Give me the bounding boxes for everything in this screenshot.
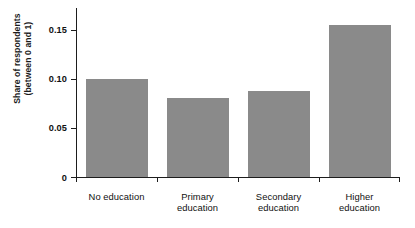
x-axis-label-line: education <box>238 202 319 213</box>
x-axis-label-line: Secondary <box>238 191 319 202</box>
y-axis-title: Share of respondents (between 0 and 1) <box>12 0 33 148</box>
y-tick-label: 0.10 <box>49 74 67 84</box>
plot-area: 00.050.100.15 No educationPrimaryeducati… <box>76 8 400 177</box>
x-axis-label: Highereducation <box>319 191 400 214</box>
y-tick-label: 0.15 <box>49 25 67 35</box>
x-tick <box>76 177 77 182</box>
y-tick-label: 0.05 <box>49 123 67 133</box>
y-axis-title-line-1: Share of respondents <box>12 0 23 148</box>
x-tick <box>157 177 158 182</box>
x-tick <box>238 177 239 182</box>
y-tick-label: 0 <box>62 173 67 183</box>
bar <box>167 98 229 177</box>
cropped-title-remnant <box>8 0 308 3</box>
x-axis-label-line: education <box>157 202 238 213</box>
x-tick <box>319 177 320 182</box>
bar-chart: Share of respondents (between 0 and 1) 0… <box>0 0 415 228</box>
bar <box>86 79 148 177</box>
y-tick: 0.05 <box>71 128 76 129</box>
x-axis-label-line: Primary <box>157 191 238 202</box>
y-tick: 0.10 <box>71 79 76 80</box>
x-axis-label: No education <box>76 191 157 202</box>
x-axis-label-line: No education <box>76 191 157 202</box>
x-axis-label: Secondaryeducation <box>238 191 319 214</box>
y-axis-line <box>76 8 77 177</box>
x-axis-label-line: education <box>319 202 400 213</box>
bar <box>329 25 391 177</box>
x-axis-label-line: Higher <box>319 191 400 202</box>
bar <box>248 91 310 177</box>
x-axis-label: Primaryeducation <box>157 191 238 214</box>
x-tick <box>399 177 400 182</box>
y-axis-title-line-2: (between 0 and 1) <box>23 0 34 148</box>
y-tick: 0.15 <box>71 30 76 31</box>
